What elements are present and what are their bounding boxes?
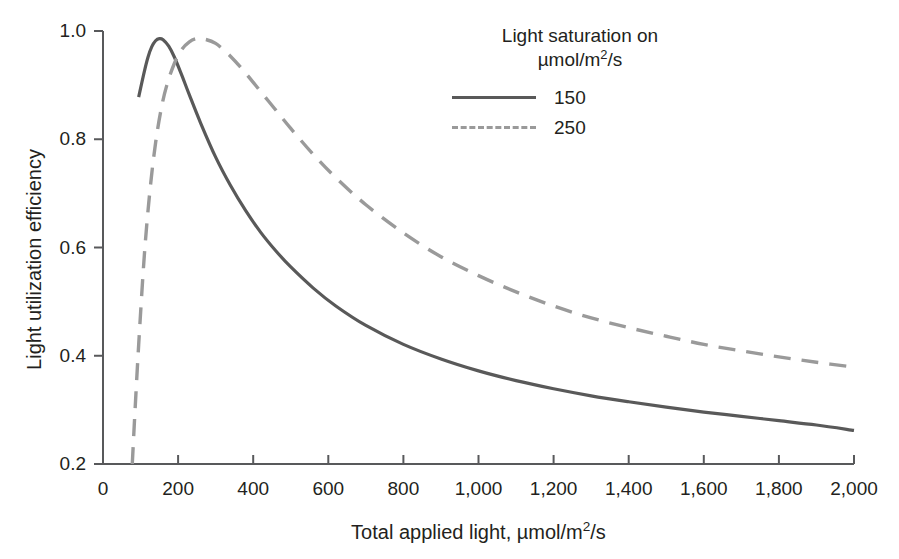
legend-line-swatch-150: [452, 96, 536, 99]
x-tick-label: 400: [237, 478, 269, 500]
y-tick-label: 0.2: [10, 453, 86, 475]
legend-item-150[interactable]: 150: [430, 83, 730, 113]
x-tick-label: 1,200: [530, 478, 578, 500]
x-tick-label: 1,600: [680, 478, 728, 500]
y-tick-label: 0.4: [10, 345, 86, 367]
chart-legend: Light saturation on µmol/m2/s 150250: [430, 24, 730, 143]
y-tick-label: 0.6: [10, 237, 86, 259]
x-tick-label: 2,000: [830, 478, 878, 500]
x-tick-label: 200: [162, 478, 194, 500]
x-axis-title-text: Total applied light, µmol/m2/s: [351, 521, 606, 543]
legend-title-line-2: µmol/m2/s: [430, 48, 730, 72]
x-tick-label: 600: [312, 478, 344, 500]
legend-label-250: 250: [554, 117, 586, 139]
y-tick-label: 0.8: [10, 128, 86, 150]
x-axis-title: Total applied light, µmol/m2/s: [103, 521, 854, 544]
x-tick-label: 1,000: [455, 478, 503, 500]
legend-line-swatch-250: [452, 126, 536, 129]
x-tick-label: 1,400: [605, 478, 653, 500]
y-axis-title: Light utilization efficiency: [23, 50, 46, 470]
x-tick-label: 0: [98, 478, 109, 500]
legend-item-250[interactable]: 250: [430, 113, 730, 143]
x-tick-marks: [178, 455, 854, 464]
legend-title-line-1: Light saturation on: [430, 24, 730, 48]
legend-entries: 150250: [430, 83, 730, 143]
y-tick-label: 1.0: [10, 20, 86, 42]
y-tick-marks: [94, 31, 103, 464]
legend-label-150: 150: [554, 87, 586, 109]
x-tick-label: 1,800: [755, 478, 803, 500]
x-tick-label: 800: [388, 478, 420, 500]
chart-figure: 0.20.40.60.81.0 02004006008001,0001,2001…: [0, 0, 899, 559]
